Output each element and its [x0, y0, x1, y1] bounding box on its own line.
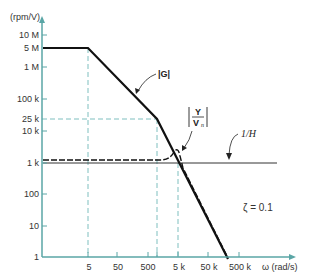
x-tick-labels: 5 50 500 5 k 50 k 500 k: [86, 262, 251, 272]
g-magnitude-curve: [43, 48, 228, 259]
x-axis-arrow: [289, 254, 296, 260]
x-tick-500k: 500 k: [229, 262, 252, 272]
x-tick-50: 50: [113, 262, 123, 272]
one-over-h-annotation: 1/H: [226, 128, 257, 160]
y-annotation-numerator: Y: [195, 107, 201, 117]
y-annotation-denominator: V: [193, 118, 199, 128]
x-tick-5k: 5 k: [173, 262, 186, 272]
bode-plot: (rpm/V) 10 M 5 M 1 M 100 k 25 k 10 k 1 k…: [0, 0, 310, 278]
y-tick-1m: 1 M: [24, 62, 39, 72]
x-tick-500: 500: [140, 262, 155, 272]
g-annotation-label: |G|: [158, 69, 170, 79]
y-tick-100: 100: [24, 189, 39, 199]
y-annotation-subscript: n: [201, 122, 204, 128]
y-tick-1: 1: [34, 252, 39, 262]
zeta-label: ζ = 0.1: [243, 202, 273, 214]
y-tick-25k: 25 k: [22, 114, 40, 124]
g-annotation-arrow: [138, 74, 156, 91]
y-tick-10m: 10 M: [19, 30, 39, 40]
y-over-vn-annotation: Y V n: [182, 107, 207, 151]
x-tick-5: 5: [86, 262, 91, 272]
y-tick-5m: 5 M: [24, 43, 39, 53]
y-tick-10k: 10 k: [22, 126, 40, 136]
y-tick-1k: 1 k: [27, 158, 40, 168]
y-tick-10: 10: [29, 221, 39, 231]
guide-lines: [42, 48, 178, 257]
y-tick-100k: 100 k: [17, 94, 40, 104]
x-axis-label: ω (rad/s): [262, 262, 298, 272]
y-tick-labels: (rpm/V) 10 M 5 M 1 M 100 k 25 k 10 k 1 k…: [10, 12, 40, 262]
x-tick-50k: 50 k: [200, 262, 218, 272]
h-annotation-label: 1/H: [241, 128, 257, 139]
y-axis-label: (rpm/V): [10, 12, 40, 22]
